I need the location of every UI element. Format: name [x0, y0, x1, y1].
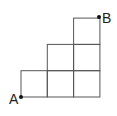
grid-cell [74, 71, 100, 97]
grid-diagram: A B [0, 0, 117, 116]
grid-cell [21, 71, 47, 97]
grid-cell [74, 18, 100, 44]
grid-cell [47, 71, 73, 97]
point-b-dot [97, 15, 101, 19]
point-a-label: A [9, 91, 19, 107]
grid-cell [47, 44, 73, 70]
grid-cell [74, 44, 100, 70]
point-b-label: B [102, 10, 111, 26]
point-a-dot [19, 95, 23, 99]
